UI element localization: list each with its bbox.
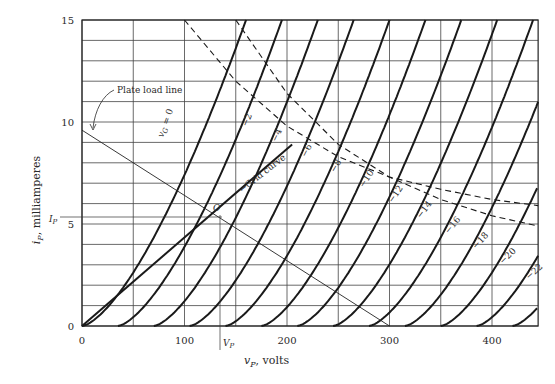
- ip-label: IP: [48, 214, 58, 226]
- x-axis-title: vP, volts: [244, 354, 289, 369]
- operating-point-label: O: [213, 203, 221, 213]
- x-tick-label: 200: [277, 335, 296, 346]
- grid-lines: [82, 20, 538, 326]
- y-tick-label: 5: [68, 219, 74, 230]
- curve-label: −12: [386, 183, 405, 204]
- curve-label: −16: [443, 214, 463, 235]
- y-tick-label: 0: [68, 321, 74, 332]
- curve-label: −20: [497, 246, 518, 267]
- y-axis-title: iP, milliamperes: [30, 155, 45, 244]
- curve-label: −22: [524, 261, 545, 281]
- curve-label: −14: [414, 199, 434, 220]
- x-tick-label: 100: [175, 335, 194, 346]
- x-tick-label: 300: [380, 335, 399, 346]
- curve-labels: −2−4−6−8−10−12−14−16−18−20−22: [240, 112, 545, 282]
- plate-load-line-label: Plate load line: [117, 85, 182, 95]
- x-tick-label: 400: [482, 335, 501, 346]
- curve-label: −18: [470, 230, 490, 251]
- vg0-curve-label: vG = 0: [155, 107, 177, 139]
- triode-plate-characteristics-chart: 0100200300400051015 −2−4−6−8−10−12−14−16…: [0, 0, 555, 384]
- x-tick-label: 0: [79, 335, 85, 346]
- y-tick-label: 15: [61, 15, 74, 26]
- curve-label: −6: [299, 142, 314, 159]
- grid-curve-label: ←Grid curve: [237, 152, 287, 194]
- plot-frame: [82, 20, 538, 326]
- y-tick-label: 10: [61, 117, 74, 128]
- plate-curve: [513, 308, 538, 326]
- plate-curves: [82, 20, 538, 326]
- tick-labels: 0100200300400051015: [61, 15, 501, 346]
- vp-label: VP: [223, 338, 235, 350]
- curve-label: −2: [240, 112, 254, 128]
- curve-label: −4: [269, 127, 284, 143]
